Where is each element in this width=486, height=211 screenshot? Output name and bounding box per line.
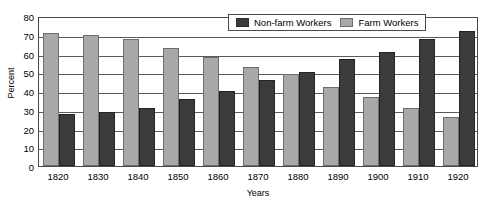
bar-group: [279, 18, 319, 166]
x-axis-tick-labels: 1820183018401850186018701880189019001910…: [38, 171, 478, 185]
legend-label: Non-farm Workers: [254, 18, 331, 28]
y-tick-label: 40: [23, 88, 34, 97]
bar: [139, 108, 155, 166]
bar: [299, 72, 315, 166]
bar: [403, 108, 419, 166]
bar: [179, 99, 195, 167]
x-tick-label: 1870: [247, 171, 268, 182]
bar-group: [119, 18, 159, 166]
bar: [123, 39, 139, 167]
x-tick-label: 1910: [407, 171, 428, 182]
y-tick-label: 20: [23, 125, 34, 134]
bar: [323, 87, 339, 166]
bar: [163, 48, 179, 166]
x-tick-label: 1820: [47, 171, 68, 182]
bar: [363, 97, 379, 166]
bar-group: [39, 18, 79, 166]
bar-group: [239, 18, 279, 166]
legend-swatch-icon: [236, 18, 249, 27]
bar: [83, 35, 99, 166]
x-axis-title: Years: [38, 188, 478, 198]
bar: [203, 57, 219, 166]
y-tick-label: 0: [29, 163, 34, 172]
bar-chart: Percent 01020304050607080 Non-farm Worke…: [0, 0, 486, 211]
bar: [99, 112, 115, 166]
x-tick-label: 1890: [327, 171, 348, 182]
bar: [419, 39, 435, 167]
bar-group: [79, 18, 119, 166]
bar: [219, 91, 235, 166]
chart-legend: Non-farm WorkersFarm Workers: [228, 14, 426, 31]
y-axis-tick-labels: 01020304050607080: [10, 17, 34, 167]
legend-entry: Non-farm Workers: [236, 18, 331, 28]
x-tick-label: 1860: [207, 171, 228, 182]
bar-group: [359, 18, 399, 166]
x-tick-label: 1900: [367, 171, 388, 182]
y-tick-label: 30: [23, 106, 34, 115]
bars-layer: [39, 18, 477, 166]
bar: [379, 52, 395, 166]
bar: [259, 80, 275, 166]
legend-label: Farm Workers: [358, 18, 418, 28]
bar-group: [319, 18, 359, 166]
x-tick-label: 1840: [127, 171, 148, 182]
y-tick-label: 70: [23, 31, 34, 40]
x-tick-label: 1830: [87, 171, 108, 182]
bar: [43, 33, 59, 166]
bar: [243, 67, 259, 166]
plot-area: [38, 17, 478, 167]
bar: [339, 59, 355, 166]
y-tick-label: 50: [23, 69, 34, 78]
bar-group: [439, 18, 478, 166]
x-tick-label: 1920: [447, 171, 468, 182]
bar: [283, 74, 299, 166]
y-tick-label: 80: [23, 13, 34, 22]
bar-group: [159, 18, 199, 166]
legend-entry: Farm Workers: [340, 18, 418, 28]
bar: [459, 31, 475, 166]
y-tick-label: 60: [23, 50, 34, 59]
y-tick-label: 10: [23, 144, 34, 153]
x-tick-label: 1880: [287, 171, 308, 182]
bar: [59, 114, 75, 167]
bar-group: [199, 18, 239, 166]
bar-group: [399, 18, 439, 166]
x-tick-label: 1850: [167, 171, 188, 182]
bar: [443, 117, 459, 166]
legend-swatch-icon: [340, 18, 353, 27]
